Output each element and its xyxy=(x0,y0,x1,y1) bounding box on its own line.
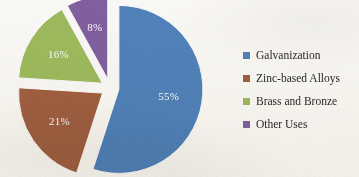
pie-chart-figure: 55%21%16%8% Galvanization Zinc-based All… xyxy=(0,0,359,177)
legend-item-zinc-based-alloys[interactable]: Zinc-based Alloys xyxy=(243,67,357,90)
legend-swatch-brass-and-bronze xyxy=(243,98,250,105)
pie-slice-data-label: 55% xyxy=(158,90,179,102)
legend-item-galvanization[interactable]: Galvanization xyxy=(243,44,357,67)
pie-slice-data-label: 8% xyxy=(87,21,102,33)
legend-label-brass-and-bronze: Brass and Bronze xyxy=(256,96,337,108)
legend-label-zinc-based-alloys: Zinc-based Alloys xyxy=(256,73,340,85)
pie-slice-data-label: 16% xyxy=(48,48,69,60)
pie-slice[interactable] xyxy=(19,88,103,173)
legend-swatch-zinc-based-alloys xyxy=(243,75,250,82)
pie-slice-group xyxy=(19,0,203,173)
chart-legend: Galvanization Zinc-based Alloys Brass an… xyxy=(243,44,357,136)
legend-swatch-galvanization xyxy=(243,52,250,59)
legend-label-galvanization: Galvanization xyxy=(256,50,321,62)
legend-label-other-uses: Other Uses xyxy=(256,119,307,131)
pie-slice-data-label: 21% xyxy=(49,115,70,127)
pie-slice[interactable] xyxy=(93,5,203,173)
legend-swatch-other-uses xyxy=(243,121,250,128)
legend-item-brass-and-bronze[interactable]: Brass and Bronze xyxy=(243,90,357,113)
legend-item-other-uses[interactable]: Other Uses xyxy=(243,113,357,136)
